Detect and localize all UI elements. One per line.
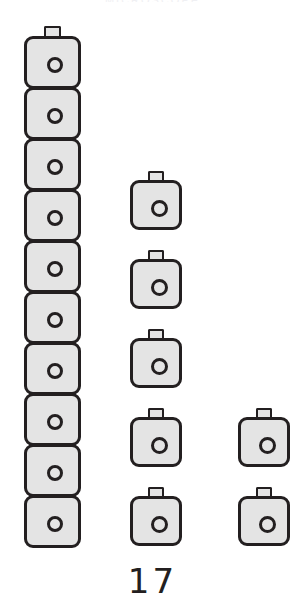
camera-lens-icon (47, 465, 63, 481)
camera-body (24, 393, 81, 446)
page-number: 17 (0, 561, 305, 601)
camera-body (130, 259, 182, 309)
camera-lens-icon (47, 159, 63, 175)
camera-body (238, 417, 290, 467)
camera-viewfinder-tab (148, 250, 164, 259)
camera-viewfinder-tab (148, 408, 164, 417)
camera-lens-icon (47, 261, 63, 277)
camera-body (130, 180, 182, 230)
camera-body (24, 495, 81, 548)
camera-body (24, 342, 81, 395)
camera-body (130, 338, 182, 388)
camera-body (238, 496, 290, 546)
camera-lens-icon (47, 516, 63, 532)
camera-body (24, 291, 81, 344)
pictograph-column-1 (24, 0, 84, 613)
camera-lens-icon (151, 279, 168, 296)
camera-viewfinder-tab (148, 171, 164, 180)
camera-lens-icon (151, 358, 168, 375)
camera-body (24, 444, 81, 497)
camera-viewfinder-tab (44, 26, 61, 36)
pictograph-figure: MICROSCOPE 17 (0, 0, 305, 613)
camera-lens-icon (47, 57, 63, 73)
camera-lens-icon (47, 363, 63, 379)
camera-body (24, 240, 81, 293)
camera-lens-icon (47, 414, 63, 430)
camera-viewfinder-tab (148, 487, 164, 496)
pictograph-column-3 (238, 0, 298, 613)
camera-lens-icon (47, 108, 63, 124)
camera-body (24, 36, 81, 89)
camera-lens-icon (259, 437, 276, 454)
camera-lens-icon (47, 312, 63, 328)
camera-lens-icon (151, 437, 168, 454)
camera-lens-icon (47, 210, 63, 226)
camera-body (130, 496, 182, 546)
camera-body (24, 87, 81, 140)
camera-lens-icon (259, 516, 276, 533)
camera-body (24, 189, 81, 242)
camera-body (130, 417, 182, 467)
pictograph-column-2 (130, 0, 190, 613)
camera-viewfinder-tab (256, 408, 272, 417)
camera-lens-icon (151, 200, 168, 217)
camera-body (24, 138, 81, 191)
camera-viewfinder-tab (256, 487, 272, 496)
camera-lens-icon (151, 516, 168, 533)
camera-viewfinder-tab (148, 329, 164, 338)
